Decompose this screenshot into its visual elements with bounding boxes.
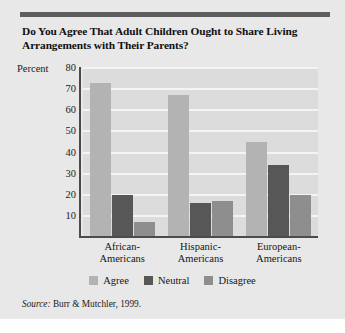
- bar-agree-2: [168, 95, 189, 237]
- figure-card: Do You Agree That Adult Children Ought t…: [0, 0, 345, 319]
- y-tick-label: 60: [54, 105, 76, 115]
- x-label-3: European-Americans: [231, 241, 327, 266]
- bar-disagree-1: [134, 222, 155, 237]
- legend-label: Neutral: [158, 275, 190, 286]
- bar-disagree-2: [212, 201, 233, 237]
- bar-neutral-3: [268, 165, 289, 237]
- bar-disagree-3: [290, 195, 311, 237]
- legend-item-agree: Agree: [89, 275, 129, 286]
- plot-area: [83, 68, 318, 237]
- legend-swatch-icon: [204, 276, 213, 285]
- bar-group: [168, 68, 233, 237]
- y-tick-label: 70: [54, 84, 76, 94]
- y-axis-line: [79, 67, 81, 238]
- legend-swatch-icon: [89, 276, 98, 285]
- y-tick-label: 20: [54, 190, 76, 200]
- x-label-line: Americans: [231, 253, 327, 265]
- bar-neutral-2: [190, 203, 211, 237]
- y-axis-title: Percent: [17, 63, 49, 74]
- legend-swatch-icon: [144, 276, 153, 285]
- y-axis-ticks: 1020304050607080: [50, 68, 76, 237]
- bar-group: [90, 68, 155, 237]
- legend-label: Agree: [103, 275, 129, 286]
- x-label-line: European-: [231, 241, 327, 253]
- legend-label: Disagree: [218, 275, 255, 286]
- source-note: Source: Burr & Mutchler, 1999.: [22, 299, 141, 309]
- source-label: Source:: [22, 299, 51, 309]
- y-tick-label: 10: [54, 211, 76, 221]
- x-axis-line: [79, 236, 318, 238]
- y-tick-label: 30: [54, 169, 76, 179]
- bar-agree-3: [246, 142, 267, 237]
- legend-item-neutral: Neutral: [144, 275, 190, 286]
- bar-agree-1: [90, 83, 111, 237]
- y-tick-label: 50: [54, 126, 76, 136]
- chart-legend: AgreeNeutralDisagree: [0, 275, 345, 286]
- source-citation: Burr & Mutchler, 1999.: [51, 299, 142, 309]
- bar-neutral-1: [112, 195, 133, 237]
- y-tick-label: 80: [54, 63, 76, 73]
- bar-group: [246, 68, 311, 237]
- legend-item-disagree: Disagree: [204, 275, 255, 286]
- y-tick-label: 40: [54, 148, 76, 158]
- chart-plot: Percent 1020304050607080 African-America…: [0, 0, 345, 319]
